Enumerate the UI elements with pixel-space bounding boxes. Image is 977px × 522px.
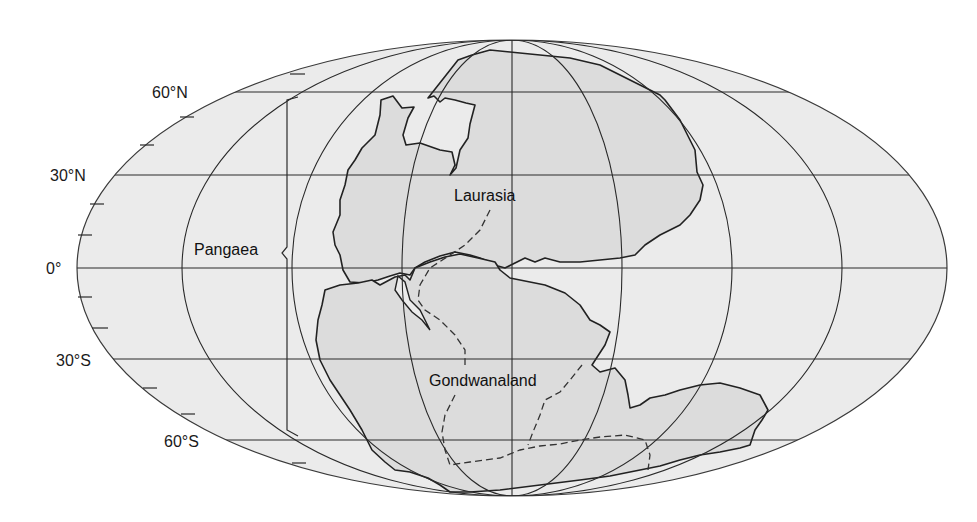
lat-label-30s: 30°S (56, 352, 91, 369)
pangaea-label: Pangaea (194, 241, 258, 258)
pangaea-map: 60°N 30°N 0° 30°S 60°S Pangaea Laurasia … (0, 0, 977, 522)
gondwanaland-label: Gondwanaland (429, 372, 537, 389)
lat-label-60s: 60°S (164, 433, 199, 450)
lat-label-30n: 30°N (50, 167, 86, 184)
lat-label-60n: 60°N (152, 84, 188, 101)
laurasia-label: Laurasia (454, 187, 515, 204)
lat-label-0: 0° (46, 260, 61, 277)
